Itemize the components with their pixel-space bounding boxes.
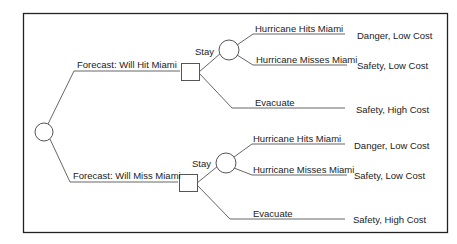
stay-upper-label: Stay bbox=[195, 46, 214, 57]
decision-node-hit bbox=[182, 64, 200, 81]
forecast-hit-label: Forecast: Will Hit Miami bbox=[77, 59, 177, 70]
result-misses-upper: Safety, Low Cost bbox=[357, 60, 428, 71]
stay-lower-label: Stay bbox=[192, 158, 211, 169]
outcome-hits-lower: Hurricane Hits Miami bbox=[253, 133, 341, 144]
branch-line-hits-lower bbox=[234, 144, 345, 157]
chance-node-lower bbox=[216, 153, 236, 173]
chance-node-upper bbox=[219, 40, 239, 60]
outcome-hits-upper: Hurricane Hits Miami bbox=[255, 23, 343, 34]
result-evacuate-upper: Safety, High Cost bbox=[356, 104, 429, 115]
evacuate-lower-label: Evacuate bbox=[253, 208, 293, 219]
result-misses-lower: Safety, Low Cost bbox=[354, 170, 425, 181]
branch-line-hits-upper bbox=[237, 34, 345, 45]
result-evacuate-lower: Safety, High Cost bbox=[353, 214, 426, 225]
branch-line-forecast-hit bbox=[48, 71, 180, 124]
outcome-misses-lower: Hurricane Misses Miami bbox=[253, 164, 354, 175]
forecast-miss-label: Forecast: Will Miss Miami bbox=[73, 170, 181, 181]
outcome-misses-upper: Hurricane Misses Miami bbox=[256, 54, 357, 65]
root-chance-node bbox=[35, 123, 53, 141]
result-hits-upper: Danger, Low Cost bbox=[357, 30, 433, 41]
result-hits-lower: Danger, Low Cost bbox=[354, 140, 430, 151]
decision-node-miss bbox=[180, 175, 198, 192]
evacuate-upper-label: Evacuate bbox=[255, 97, 295, 108]
